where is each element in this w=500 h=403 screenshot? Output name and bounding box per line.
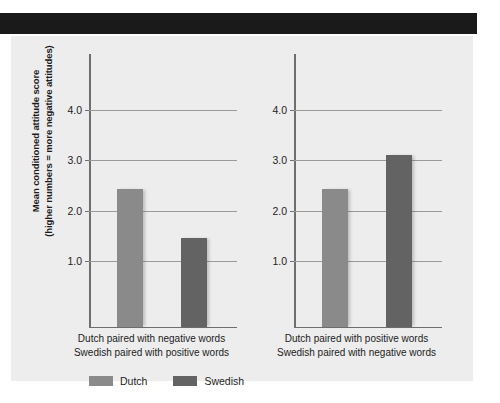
x-axis-caption-left-line-1: Dutch paired with negative words [59,332,244,346]
tick-mark-4-right [290,110,294,111]
header-rule [0,13,477,34]
legend-swatch-swedish [173,376,197,386]
tick-mark-2-left [85,211,89,212]
bar-left-swedish [181,238,207,327]
tick-label-1-right: 1.0 [272,255,287,267]
gridline-4-left: 4.0 [89,110,237,111]
tick-mark-1-right [290,261,294,262]
plot-area-right: 4.0 3.0 2.0 1.0 [294,54,442,328]
tick-label-1-left: 1.0 [67,255,82,267]
y-axis-title-line-2: (higher numbers = more negative attitude… [43,41,56,241]
tick-mark-1-left [85,261,89,262]
chart-panel-right: 4.0 3.0 2.0 1.0 Dutch paired with positi… [264,36,449,381]
tick-label-2-right: 2.0 [272,205,287,217]
chart-panel-left: 4.0 3.0 2.0 1.0 Dutch paired with negati… [59,36,244,381]
gridline-3-right: 3.0 [294,160,442,161]
y-axis-line-right [294,54,296,328]
bar-right-dutch [322,189,348,326]
y-axis-title-line-1: Mean conditioned attitude score [30,41,43,241]
gridline-3-left: 3.0 [89,160,237,161]
tick-label-3-left: 3.0 [67,154,82,166]
gridline-1-right: 1.0 [294,261,442,262]
legend-item-swedish: Swedish [173,375,244,387]
chart-legend: Dutch Swedish [89,375,244,387]
tick-label-3-right: 3.0 [272,154,287,166]
figure-panel: Mean conditioned attitude score (higher … [11,36,473,381]
legend-swatch-dutch [89,376,113,386]
tick-mark-3-left [85,160,89,161]
legend-label-swedish: Swedish [204,375,244,387]
tick-label-4-right: 4.0 [272,104,287,116]
x-axis-caption-right-line-1: Dutch paired with positive words [264,332,449,346]
x-axis-caption-right: Dutch paired with positive words Swedish… [264,332,449,359]
bar-right-swedish [386,155,412,327]
x-axis-caption-left-line-2: Swedish paired with positive words [59,346,244,360]
x-axis-caption-right-line-2: Swedish paired with negative words [264,346,449,360]
tick-mark-2-right [290,211,294,212]
gridline-2-left: 2.0 [89,211,237,212]
gridline-2-right: 2.0 [294,211,442,212]
legend-item-dutch: Dutch [89,375,147,387]
x-axis-line-left [89,327,237,329]
x-axis-caption-left: Dutch paired with negative words Swedish… [59,332,244,359]
tick-label-2-left: 2.0 [67,205,82,217]
tick-label-4-left: 4.0 [67,104,82,116]
gridline-4-right: 4.0 [294,110,442,111]
bar-left-dutch [117,189,143,326]
y-axis-line-left [89,54,91,328]
tick-mark-3-right [290,160,294,161]
plot-area-left: 4.0 3.0 2.0 1.0 [89,54,237,328]
legend-label-dutch: Dutch [120,375,147,387]
tick-mark-4-left [85,110,89,111]
gridline-1-left: 1.0 [89,261,237,262]
x-axis-line-right [294,327,442,329]
